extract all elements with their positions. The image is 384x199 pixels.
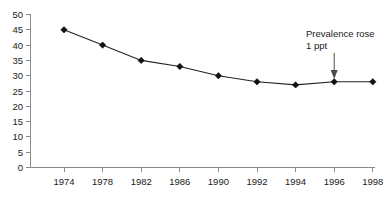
y-tick-label-15: 15 <box>12 116 23 127</box>
chart-container: 50 45 40 35 30 25 20 15 10 5 0 1974 1978… <box>0 0 384 199</box>
y-tick-label-10: 10 <box>12 131 23 142</box>
data-point-marker <box>292 82 298 88</box>
x-tick-label-1982: 1982 <box>131 176 152 187</box>
data-point-marker <box>254 79 260 85</box>
data-point-marker <box>99 42 105 48</box>
y-tick-label-5: 5 <box>18 147 23 158</box>
y-tick-label-20: 20 <box>12 101 23 112</box>
y-tick-label-0: 0 <box>18 162 23 173</box>
y-tick-label-50: 50 <box>12 9 23 20</box>
y-tick-label-30: 30 <box>12 70 23 81</box>
x-tick-label-1974: 1974 <box>53 176 74 187</box>
data-point-marker <box>61 27 67 33</box>
annotation-line-1: Prevalence rose <box>306 28 375 39</box>
x-tick-label-1992: 1992 <box>246 176 267 187</box>
x-tick-label-1994: 1994 <box>285 176 306 187</box>
y-tick-label-25: 25 <box>12 86 23 97</box>
x-tick-label-1990: 1990 <box>208 176 229 187</box>
annotation-line-2: 1 ppt <box>306 40 327 51</box>
x-axis-ticks <box>64 168 373 173</box>
data-point-marker <box>215 73 221 79</box>
x-tick-label-1996: 1996 <box>324 176 345 187</box>
x-tick-label-1998: 1998 <box>362 176 383 187</box>
line-chart: 50 45 40 35 30 25 20 15 10 5 0 1974 1978… <box>0 0 384 199</box>
x-tick-label-1978: 1978 <box>92 176 113 187</box>
data-point-marker <box>331 79 337 85</box>
y-tick-label-45: 45 <box>12 24 23 35</box>
annotation-arrow <box>331 53 338 79</box>
y-tick-label-35: 35 <box>12 55 23 66</box>
data-point-marker <box>138 57 144 63</box>
data-point-marker <box>177 63 183 69</box>
x-tick-label-1986: 1986 <box>169 176 190 187</box>
y-axis-ticks <box>26 15 31 168</box>
data-point-marker <box>370 79 376 85</box>
y-tick-label-40: 40 <box>12 40 23 51</box>
